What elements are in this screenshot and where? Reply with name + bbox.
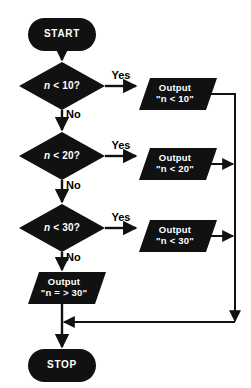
decision-2-shape xyxy=(19,132,105,180)
start-terminal-shape xyxy=(28,18,96,51)
connector-output1-to-right-rail xyxy=(207,94,235,316)
flowchart-diagram: START n < 10? Output "n < 10" n < 20? Ou… xyxy=(0,0,251,388)
output-4-shape xyxy=(28,272,106,304)
decision-1-shape xyxy=(19,62,105,110)
flowchart-canvas xyxy=(0,0,251,388)
stop-terminal-shape xyxy=(28,349,96,382)
output-2-shape xyxy=(139,148,217,180)
decision-3-shape xyxy=(19,204,105,252)
output-3-shape xyxy=(139,220,217,252)
output-1-shape xyxy=(139,78,217,110)
